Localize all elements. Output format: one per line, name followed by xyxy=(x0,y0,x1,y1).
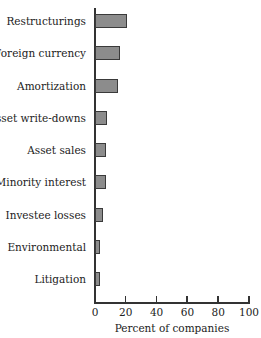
bar xyxy=(95,240,100,254)
bar xyxy=(95,46,120,60)
bar xyxy=(95,111,107,125)
x-tick xyxy=(125,296,127,303)
category-label: Litigation xyxy=(34,273,86,285)
x-tick xyxy=(248,296,250,303)
category-label: Amortization xyxy=(17,80,86,92)
x-tick xyxy=(156,296,158,303)
x-tick-label: 20 xyxy=(119,306,132,318)
x-tick-label: 60 xyxy=(181,306,194,318)
category-label: Asset write-downs xyxy=(0,112,86,124)
x-tick-label: 100 xyxy=(239,306,259,318)
category-label: Foreign currency xyxy=(0,47,86,59)
x-tick xyxy=(186,296,188,303)
x-axis-title: Percent of companies xyxy=(115,322,230,334)
bar xyxy=(95,208,103,222)
bar xyxy=(95,79,118,93)
x-tick xyxy=(94,296,96,303)
category-label: Environmental xyxy=(7,241,86,253)
x-tick xyxy=(217,296,219,303)
bar xyxy=(95,14,127,28)
x-tick-label: 80 xyxy=(212,306,225,318)
bar xyxy=(95,143,106,157)
x-tick-label: 40 xyxy=(150,306,163,318)
bar xyxy=(95,175,106,189)
category-label: Restructurings xyxy=(6,15,86,27)
category-label: Minority interest xyxy=(0,176,86,188)
category-label: Asset sales xyxy=(27,144,86,156)
bar-chart: RestructuringsForeign currencyAmortizati… xyxy=(0,0,261,338)
category-label: Investee losses xyxy=(6,209,87,221)
bar xyxy=(95,272,100,286)
x-tick-label: 0 xyxy=(92,306,99,318)
x-axis xyxy=(94,302,250,304)
